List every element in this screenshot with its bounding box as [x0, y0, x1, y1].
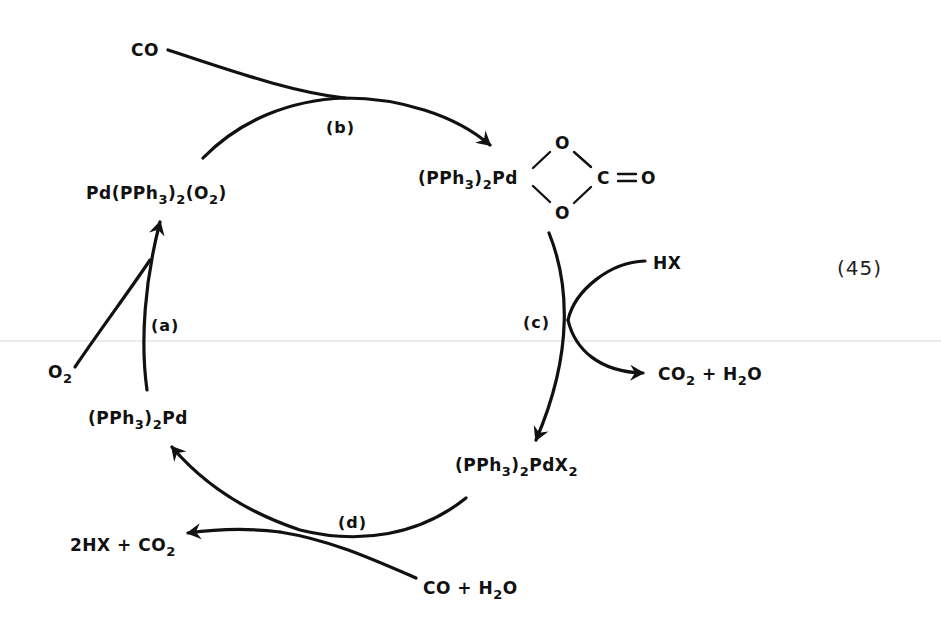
arrow-d-product-branch — [188, 529, 280, 533]
bond-pd-o-top — [533, 152, 550, 168]
reagent-co-in: CO — [131, 42, 159, 59]
species-pd-x2: (PPh3)2PdX2 — [455, 457, 578, 474]
arrow-b-co-branch — [168, 50, 345, 98]
arrow-a-o2-branch — [75, 260, 150, 367]
bond-pd-o-bottom — [533, 186, 550, 202]
reagent-o2-in: O2 — [48, 364, 73, 381]
arrow-d-co-branch — [280, 532, 416, 578]
product-2hx-co2: 2HX + CO2 — [70, 537, 176, 554]
arrow-d-main — [172, 447, 466, 537]
reagent-co-h2o-in: CO + H2O — [423, 580, 518, 597]
arrow-c-main — [536, 233, 564, 440]
species-pd-o2-complex: Pd(PPh3)2(O2) — [86, 185, 227, 202]
bond-o-c-top — [574, 152, 591, 167]
reagent-hx-in: HX — [653, 255, 681, 272]
step-label-a: (a) — [151, 318, 179, 334]
carbonyl-atom-o: O — [641, 170, 656, 187]
equation-number: (45) — [837, 256, 882, 280]
species-peroxocarbonate-prefix: (PPh3)2Pd — [418, 170, 518, 187]
arrow-c-product-branch — [568, 320, 643, 373]
species-pd0: (PPh3)2Pd — [88, 410, 188, 427]
step-label-d: (d) — [338, 515, 367, 531]
ring-atom-c: C — [597, 170, 610, 187]
ring-atom-o-top: O — [555, 135, 570, 152]
bond-o-c-bottom — [574, 187, 591, 203]
ring-atom-o-bottom: O — [555, 205, 570, 222]
arrow-c-hx-branch — [568, 261, 645, 320]
arrow-a-main — [144, 222, 160, 390]
product-co2-h2o: CO2 + H2O — [658, 366, 762, 383]
step-label-c: (c) — [523, 315, 550, 331]
step-label-b: (b) — [326, 120, 355, 136]
